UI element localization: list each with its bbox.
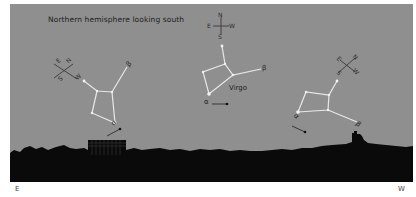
motion-arrow-left (107, 129, 120, 136)
svg-text:α: α (204, 98, 209, 106)
direction-east-label: E (15, 185, 19, 193)
svg-text:W: W (229, 22, 235, 29)
svg-text:β: β (124, 60, 133, 69)
horizon-silhouette (10, 131, 413, 182)
virgo-rising-east (84, 67, 127, 123)
svg-text:α: α (109, 118, 118, 127)
svg-text:W: W (351, 67, 360, 76)
svg-text:S: S (335, 69, 343, 77)
motion-arrow-right (292, 126, 305, 132)
svg-text:S: S (56, 74, 64, 82)
svg-text:α: α (292, 112, 301, 121)
virgo-label: Virgo (229, 84, 247, 92)
svg-text:E: E (207, 22, 211, 29)
sky-scene: N E S W β α NE WS β α Virgo (10, 4, 413, 182)
svg-text:N: N (218, 11, 223, 18)
svg-text:E: E (54, 56, 62, 64)
svg-text:β: β (262, 64, 266, 72)
svg-text:W: W (73, 72, 82, 81)
svg-text:S: S (218, 33, 222, 40)
compass-n-left: N (64, 56, 72, 64)
direction-west-label: W (398, 185, 405, 193)
virgo-setting-west (298, 81, 357, 122)
sky-panel: Northern hemisphere looking south N E (10, 4, 413, 182)
